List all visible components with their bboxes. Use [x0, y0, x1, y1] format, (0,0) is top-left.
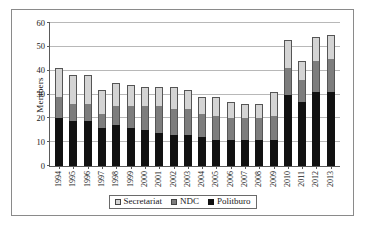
bar-segment-secretariat — [84, 75, 92, 104]
y-axis-tick-label: 20 — [37, 114, 46, 123]
bar-slot: 1998 — [109, 23, 123, 166]
bar-segment-ndc — [170, 109, 178, 135]
x-axis-tick-mark — [59, 166, 60, 169]
x-axis-tick-label: 1999 — [127, 171, 135, 187]
x-axis-tick-mark — [188, 166, 189, 169]
bar-slot: 2009 — [266, 23, 280, 166]
bar-segment-politburo — [184, 135, 192, 166]
bar-slot: 2002 — [166, 23, 180, 166]
bar-segment-secretariat — [312, 37, 320, 61]
bar-segment-ndc — [112, 106, 120, 125]
stacked-bar — [112, 83, 120, 166]
x-axis-tick-label: 2004 — [198, 171, 206, 187]
chart-figure: Members 0102030405060 199419951996199719… — [11, 9, 354, 216]
bar-segment-ndc — [98, 114, 106, 128]
bar-segment-politburo — [127, 128, 135, 166]
x-axis-tick-mark — [216, 166, 217, 169]
stacked-bar — [155, 87, 163, 166]
x-axis-tick-mark — [331, 166, 332, 169]
bar-slot: 2000 — [138, 23, 152, 166]
bar-segment-ndc — [298, 80, 306, 101]
bar-segment-secretariat — [170, 87, 178, 108]
y-axis-tick-label: 30 — [37, 90, 46, 99]
x-axis-tick-label: 2011 — [298, 171, 306, 187]
bar-slot: 2012 — [309, 23, 323, 166]
stacked-bar — [255, 104, 263, 166]
y-axis-tick-label: 40 — [37, 66, 46, 75]
legend-swatch-icon — [208, 199, 214, 205]
bar-segment-politburo — [241, 140, 249, 166]
legend-item[interactable]: NDC — [171, 197, 199, 206]
bar-segment-secretariat — [112, 83, 120, 107]
legend-item[interactable]: Secretariat — [114, 197, 161, 206]
bar-segment-secretariat — [127, 85, 135, 106]
bar-segment-ndc — [284, 68, 292, 94]
x-axis-tick-label: 1995 — [69, 171, 77, 187]
bar-slot: 1994 — [52, 23, 66, 166]
bar-segment-ndc — [184, 109, 192, 135]
bar-slot: 2010 — [281, 23, 295, 166]
bar-slot: 2013 — [324, 23, 338, 166]
x-axis-tick-mark — [73, 166, 74, 169]
bar-segment-ndc — [227, 118, 235, 139]
x-axis-tick-label: 1994 — [55, 171, 63, 187]
x-axis-tick-mark — [88, 166, 89, 169]
x-axis-tick-mark — [259, 166, 260, 169]
stacked-bar — [327, 35, 335, 166]
bar-segment-ndc — [255, 118, 263, 139]
x-axis-tick-label: 2009 — [270, 171, 278, 187]
y-axis-tick-label: 60 — [37, 19, 46, 28]
bar-segment-secretariat — [327, 35, 335, 59]
bar-segment-politburo — [98, 128, 106, 166]
bar-group: 1994199519961997199819992000200120022003… — [50, 23, 340, 166]
x-axis-tick-label: 1997 — [98, 171, 106, 187]
x-axis-tick-label: 2003 — [184, 171, 192, 187]
plot-area: Members 0102030405060 199419951996199719… — [49, 23, 340, 167]
x-axis-tick-label: 1998 — [112, 171, 120, 187]
x-axis-tick-label: 2000 — [141, 171, 149, 187]
x-axis-tick-label: 2005 — [212, 171, 220, 187]
x-axis-tick-mark — [174, 166, 175, 169]
bar-segment-politburo — [284, 95, 292, 167]
stacked-bar — [184, 90, 192, 166]
stacked-bar — [98, 90, 106, 166]
x-axis-tick-mark — [288, 166, 289, 169]
bar-segment-politburo — [69, 121, 77, 166]
bar-slot: 2004 — [195, 23, 209, 166]
bar-segment-secretariat — [227, 102, 235, 119]
x-axis-tick-mark — [131, 166, 132, 169]
bar-slot: 1997 — [95, 23, 109, 166]
bar-segment-ndc — [84, 104, 92, 121]
bar-segment-ndc — [155, 106, 163, 132]
bar-segment-politburo — [255, 140, 263, 166]
x-axis-tick-mark — [102, 166, 103, 169]
legend-item[interactable]: Politburo — [208, 197, 251, 206]
bar-segment-ndc — [141, 106, 149, 130]
legend-label: NDC — [180, 197, 199, 206]
x-axis-tick-label: 2006 — [227, 171, 235, 187]
x-axis-tick-mark — [159, 166, 160, 169]
bar-slot: 2011 — [295, 23, 309, 166]
stacked-bar — [212, 97, 220, 166]
x-axis-tick-mark — [316, 166, 317, 169]
stacked-bar — [69, 75, 77, 166]
bar-segment-politburo — [298, 102, 306, 166]
bar-segment-ndc — [55, 97, 63, 118]
y-axis-tick-label: 0 — [41, 162, 45, 171]
x-axis-tick-mark — [145, 166, 146, 169]
x-axis-tick-mark — [116, 166, 117, 169]
stacked-bar — [198, 97, 206, 166]
bar-segment-secretariat — [198, 97, 206, 114]
bar-slot: 2005 — [209, 23, 223, 166]
bar-segment-secretariat — [270, 92, 278, 116]
bar-segment-secretariat — [255, 104, 263, 118]
bar-slot: 2007 — [238, 23, 252, 166]
stacked-bar — [170, 87, 178, 166]
stacked-bar — [141, 87, 149, 166]
bar-segment-politburo — [55, 118, 63, 166]
bar-segment-politburo — [112, 125, 120, 166]
bar-segment-politburo — [312, 92, 320, 166]
x-axis-tick-label: 2002 — [170, 171, 178, 187]
stacked-bar — [298, 61, 306, 166]
bar-slot: 2003 — [181, 23, 195, 166]
